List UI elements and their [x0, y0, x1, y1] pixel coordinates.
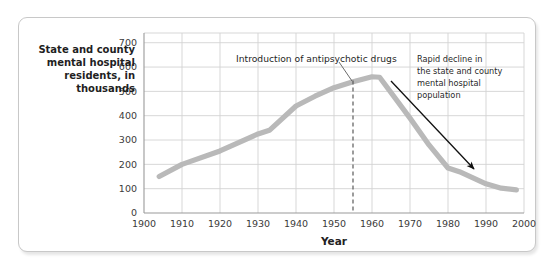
x-axis-tick-labels: 1900191019201930194019501960197019801990… [132, 218, 536, 229]
x-tick-label-1970: 1970 [398, 218, 422, 229]
y-tick-label-200: 200 [119, 159, 137, 170]
x-tick-label-1930: 1930 [246, 218, 270, 229]
annotation-rapid-decline-line-1: Rapid decline in [417, 54, 482, 64]
annotation-antipsychotic-drugs-text: Introduction of antipsychotic drugs [236, 53, 397, 64]
x-tick-label-1920: 1920 [208, 218, 232, 229]
x-tick-label-1900: 1900 [132, 218, 156, 229]
y-tick-label-400: 400 [119, 110, 137, 121]
y-axis-label-line-2: mental hospital [47, 57, 135, 68]
x-tick-label-1990: 1990 [474, 218, 498, 229]
annotation-rapid-decline-line-2: the state and county [417, 66, 502, 76]
mental-hospital-residents-line-chart: 0100200300400500600700 19001910192019301… [0, 0, 552, 271]
x-tick-label-1980: 1980 [436, 218, 460, 229]
y-tick-label-100: 100 [119, 183, 137, 194]
x-tick-label-1910: 1910 [170, 218, 194, 229]
y-axis-label-line-1: State and county [38, 44, 135, 55]
annotation-rapid-decline-line-4: population [417, 90, 461, 100]
x-tick-label-1940: 1940 [284, 218, 308, 229]
y-tick-label-300: 300 [119, 134, 137, 145]
y-axis-label-line-4: thousands [76, 83, 135, 94]
x-tick-label-1960: 1960 [360, 218, 384, 229]
annotation-rapid-decline-line-3: mental hospital [417, 78, 481, 88]
y-tick-label-0: 0 [131, 207, 137, 218]
x-tick-label-1950: 1950 [322, 218, 346, 229]
x-tick-label-2000: 2000 [512, 218, 536, 229]
figure-root: 0100200300400500600700 19001910192019301… [0, 0, 552, 271]
x-axis-title: Year [320, 235, 348, 247]
y-axis-label-line-3: residents, in [64, 70, 135, 81]
